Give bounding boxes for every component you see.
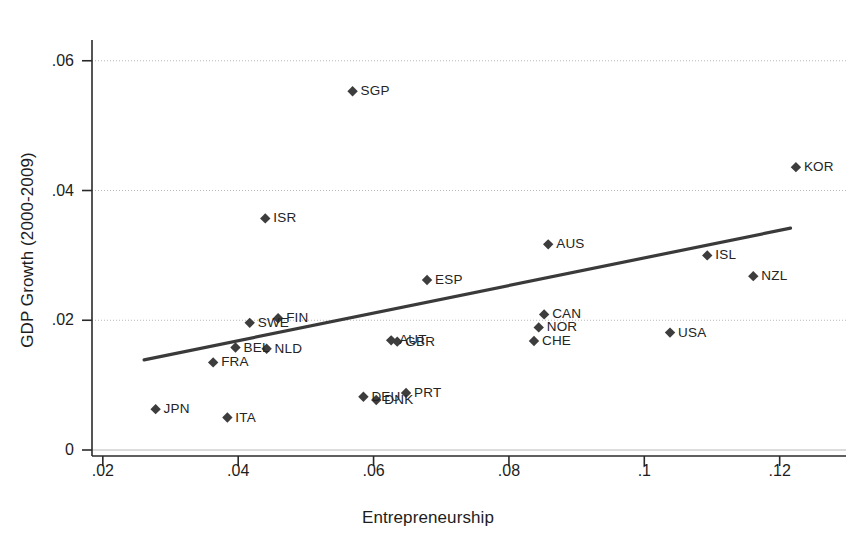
point-label-nzl: NZL [761,268,787,283]
scatter-chart: SGPKORISRAUSISLNZLESPCANFINSWENORUSAAUTG… [0,0,856,560]
x-tick-label: .02 [92,462,114,480]
regression-line [144,228,790,360]
point-label-sgp: SGP [361,83,390,98]
point-label-bel: BEL [243,340,269,355]
point-label-jpn: JPN [164,401,190,416]
point-label-aus: AUS [556,236,584,251]
point-label-prt: PRT [414,385,441,400]
y-axis-title: GDP Growth (2000-2009) [18,85,38,415]
x-tick-label: .08 [498,462,520,480]
point-label-esp: ESP [435,272,463,287]
y-tick-marks [82,61,92,450]
x-tick-label: .12 [769,462,791,480]
point-label-usa: USA [678,325,706,340]
x-tick-label: .06 [362,462,384,480]
point-label-swe: SWE [258,315,289,330]
point-label-nld: NLD [275,341,303,356]
x-tick-label: .1 [638,462,651,480]
point-label-ita: ITA [235,410,256,425]
y-tick-label: .06 [0,52,74,70]
point-label-isl: ISL [715,247,736,262]
point-label-isr: ISR [273,210,296,225]
point-label-fin: FIN [286,310,308,325]
point-label-kor: KOR [804,159,834,174]
x-tick-label: .04 [227,462,249,480]
x-tick-marks [103,456,780,466]
point-label-dnk: DNK [384,392,413,407]
data-point-markers [150,86,801,423]
point-label-che: CHE [542,333,571,348]
x-axis-title: Entrepreneurship [0,508,856,528]
plot-canvas [0,0,856,560]
point-label-fra: FRA [221,354,249,369]
point-label-gbr: GBR [405,334,435,349]
y-tick-label: 0 [0,441,74,459]
